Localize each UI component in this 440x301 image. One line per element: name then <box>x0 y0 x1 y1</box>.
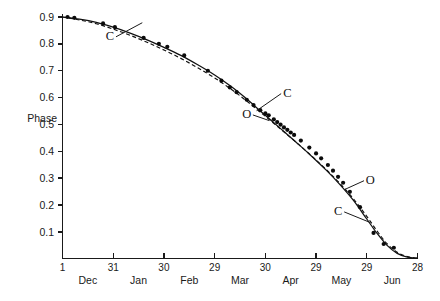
x-tick-number-31: 31 <box>108 262 120 273</box>
y-tick-label-0.1: 0.1 <box>39 226 54 238</box>
x-tick-number-29: 29 <box>209 262 221 273</box>
data-point <box>272 117 276 121</box>
data-point <box>251 103 255 107</box>
data-point <box>206 69 210 73</box>
series-label-o-3: O <box>366 173 375 187</box>
data-point <box>228 85 232 89</box>
chart-figure: 0.10.20.30.40.50.60.70.80.9 Phase 131302… <box>0 0 440 301</box>
data-point <box>65 15 69 19</box>
x-tick-number-30: 30 <box>260 262 272 273</box>
data-point <box>267 113 271 117</box>
series-label-c-0: C <box>106 29 114 43</box>
curve-o-dashed <box>63 17 418 258</box>
data-point <box>245 98 249 102</box>
observation-point-group <box>65 15 395 250</box>
data-point <box>382 242 386 246</box>
data-point <box>371 231 375 235</box>
x-axis-month-mar: Mar <box>231 274 250 286</box>
y-tick-label-0.9: 0.9 <box>39 11 54 23</box>
data-point <box>292 133 296 137</box>
data-point <box>299 138 303 142</box>
annotation-group: CCOOC <box>106 23 375 223</box>
y-tick-label-0.6: 0.6 <box>39 91 54 103</box>
x-tick-number-30: 30 <box>158 262 170 273</box>
x-tick-group <box>63 253 418 259</box>
x-axis-month-dec: Dec <box>79 274 98 286</box>
data-point <box>157 42 161 46</box>
data-point <box>278 123 282 127</box>
phase-decay-chart: 0.10.20.30.40.50.60.70.80.9 Phase 131302… <box>0 0 440 301</box>
y-axis: 0.10.20.30.40.50.60.70.80.9 Phase <box>27 11 62 259</box>
annotation-leader-4 <box>345 212 371 222</box>
y-axis-title: Phase <box>27 112 57 124</box>
y-tick-label-0.4: 0.4 <box>39 145 54 157</box>
data-point <box>336 175 340 179</box>
data-point <box>307 145 311 149</box>
data-point <box>101 21 105 25</box>
x-axis-month-jun: Jun <box>384 274 401 286</box>
y-tick-label-group: 0.10.20.30.40.50.60.70.80.9 <box>39 11 54 238</box>
x-axis-month-apr: Apr <box>283 274 300 286</box>
series-group <box>63 17 418 258</box>
data-point <box>319 156 323 160</box>
x-axis-month-feb: Feb <box>180 274 198 286</box>
curve-c-solid <box>63 17 418 258</box>
x-tick-number-1: 1 <box>60 262 66 273</box>
series-label-c-4: C <box>334 204 342 218</box>
data-point <box>165 45 169 49</box>
series-label-c-1: C <box>283 86 291 100</box>
annotation-leader-3 <box>345 181 364 190</box>
data-point <box>289 130 293 134</box>
data-point <box>331 169 335 173</box>
data-point <box>235 90 239 94</box>
data-point <box>275 120 279 124</box>
y-tick-label-0.7: 0.7 <box>39 64 54 76</box>
data-point <box>182 53 186 57</box>
x-axis: 131302930292928 DecJanFebMarAprMayJun <box>60 253 424 287</box>
x-tick-number-group: 131302930292928 <box>60 262 424 273</box>
series-label-o-2: O <box>242 107 251 121</box>
data-point <box>326 163 330 167</box>
x-tick-month-group: DecJanFebMarAprMayJun <box>79 274 401 286</box>
y-tick-label-0.2: 0.2 <box>39 199 54 211</box>
data-point <box>282 125 286 129</box>
x-tick-number-29: 29 <box>361 262 373 273</box>
data-point <box>314 151 318 155</box>
data-point <box>219 79 223 83</box>
data-point <box>72 16 76 20</box>
data-point <box>341 181 345 185</box>
x-axis-month-jan: Jan <box>130 274 147 286</box>
x-tick-number-29: 29 <box>311 262 323 273</box>
annotation-leader-1 <box>257 94 281 111</box>
data-point <box>285 128 289 132</box>
data-point <box>392 246 396 250</box>
y-tick-label-0.8: 0.8 <box>39 37 54 49</box>
x-axis-month-may: May <box>332 274 353 286</box>
x-tick-number-28: 28 <box>412 262 424 273</box>
y-tick-label-0.3: 0.3 <box>39 172 54 184</box>
data-point <box>142 36 146 40</box>
data-point <box>358 205 362 209</box>
data-point <box>348 190 352 194</box>
